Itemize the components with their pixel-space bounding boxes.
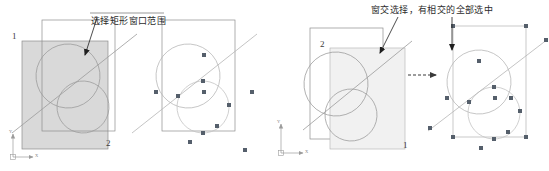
grip [176, 94, 180, 98]
grip [524, 24, 528, 28]
left-result-circle-large [148, 36, 229, 117]
grip [467, 100, 471, 104]
right-corner-label-start: 2 [320, 39, 325, 49]
right-grip-set [428, 24, 548, 150]
grip [227, 103, 231, 107]
right-result-rectangle [453, 26, 526, 137]
grip [477, 59, 481, 63]
left-after-group [132, 20, 257, 152]
grip [154, 90, 158, 94]
grip [479, 146, 483, 150]
grip [201, 131, 205, 135]
grip [492, 85, 496, 89]
grip [544, 38, 548, 42]
grip [492, 137, 496, 141]
right-result-circle-large [439, 42, 520, 123]
diagram-canvas [0, 0, 549, 171]
left-axis-y-label: Y [9, 129, 12, 134]
left-axis-x-label: X [35, 153, 38, 158]
grip [202, 90, 206, 94]
right-before-group [296, 28, 412, 149]
grip [215, 124, 219, 128]
right-ucs-icon [279, 124, 304, 156]
grip [518, 109, 522, 113]
left-result-line [132, 34, 257, 133]
grip [493, 96, 497, 100]
right-axis-x-label: X [305, 149, 308, 154]
left-result-rectangle [162, 20, 235, 131]
left-example-caption: 选择矩形窗口范围 [91, 14, 166, 27]
grip [506, 130, 510, 134]
right-after-group [428, 24, 548, 150]
grip [201, 79, 205, 83]
left-grip-set [154, 53, 254, 152]
grip [188, 140, 192, 144]
grip [250, 90, 254, 94]
right-corner-label-end: 1 [403, 140, 408, 150]
grip [445, 96, 449, 100]
left-before-group [12, 20, 137, 149]
grip [451, 135, 455, 139]
grip [524, 135, 528, 139]
figure-root: 选择矩形窗口范围 窗交选择，有相交的全部选中 1 2 2 1 Y X Y X [0, 0, 549, 171]
left-corner-label-start: 1 [12, 31, 17, 41]
grip [243, 148, 247, 152]
right-example-caption: 窗交选择，有相交的全部选中 [371, 3, 493, 16]
left-corner-label-end: 2 [106, 138, 111, 148]
grip [509, 96, 513, 100]
right-result-line [428, 39, 548, 131]
left-selection-window [22, 41, 108, 149]
grip [428, 126, 432, 130]
grip [202, 53, 206, 57]
right-axis-y-label: Y [277, 119, 280, 124]
